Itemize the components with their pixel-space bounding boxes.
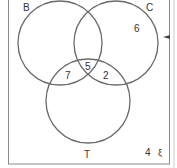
set-b-label: B (23, 2, 30, 13)
region-b-t-value: 7 (65, 70, 71, 81)
region-outside-value: 4 (145, 147, 151, 158)
region-c-only-value: 6 (134, 23, 140, 34)
region-b-c-t-value: 5 (85, 61, 91, 72)
universal-set-frame (9, 0, 170, 164)
venn-diagram: B C T 6 7 5 2 4 ξ (0, 0, 177, 168)
set-t-label: T (84, 149, 90, 160)
universal-set-symbol: ξ (158, 148, 162, 158)
set-c-circle (74, 1, 158, 85)
arrow-pointer-icon (163, 35, 170, 39)
region-c-t-value: 2 (103, 70, 109, 81)
set-c-label: C (146, 2, 153, 13)
set-b-circle (18, 1, 102, 85)
